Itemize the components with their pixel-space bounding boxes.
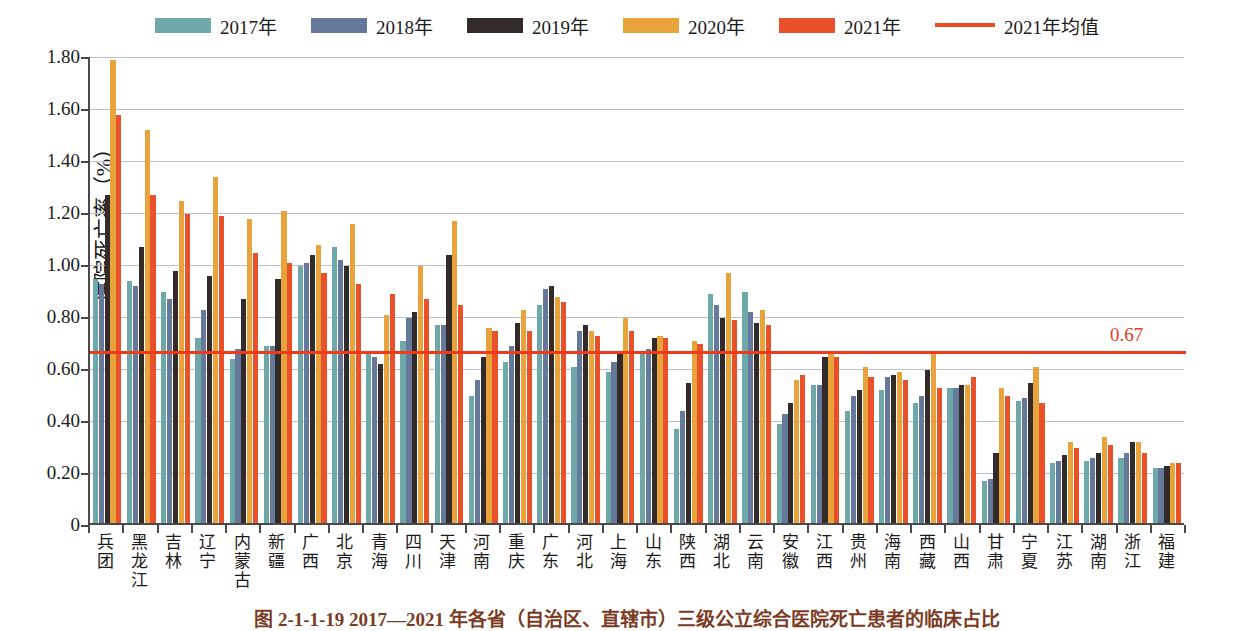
bar[interactable] <box>868 377 873 523</box>
bar[interactable] <box>195 338 200 523</box>
bar[interactable] <box>469 396 474 523</box>
bar[interactable] <box>185 214 190 523</box>
bar[interactable] <box>264 346 269 523</box>
bar[interactable] <box>321 273 326 523</box>
bar[interactable] <box>139 247 144 523</box>
bar[interactable] <box>486 328 491 523</box>
bar[interactable] <box>1118 458 1123 523</box>
bar[interactable] <box>1153 468 1158 523</box>
bar[interactable] <box>788 403 793 523</box>
bar[interactable] <box>680 411 685 523</box>
bar[interactable] <box>161 292 166 523</box>
bar[interactable] <box>623 318 628 523</box>
bar[interactable] <box>885 377 890 523</box>
bar[interactable] <box>503 362 508 523</box>
bar[interactable] <box>1096 453 1101 523</box>
bar[interactable] <box>800 375 805 523</box>
bar[interactable] <box>173 271 178 523</box>
bar[interactable] <box>537 305 542 523</box>
bar[interactable] <box>1176 463 1181 523</box>
bar[interactable] <box>509 346 514 523</box>
bar[interactable] <box>692 341 697 523</box>
bar[interactable] <box>1022 398 1027 523</box>
bar[interactable] <box>583 325 588 523</box>
bar[interactable] <box>748 312 753 523</box>
bar[interactable] <box>424 299 429 523</box>
bar[interactable] <box>606 372 611 523</box>
bar[interactable] <box>298 266 303 523</box>
bar[interactable] <box>1074 448 1079 523</box>
bar[interactable] <box>851 396 856 523</box>
bar[interactable] <box>412 312 417 523</box>
bar[interactable] <box>965 385 970 523</box>
legend-item-2019年[interactable]: 2019年 <box>467 12 589 39</box>
bar[interactable] <box>1158 468 1163 523</box>
bar[interactable] <box>720 318 725 523</box>
bar[interactable] <box>1102 437 1107 523</box>
bar[interactable] <box>959 385 964 523</box>
bar[interactable] <box>640 351 645 523</box>
bar[interactable] <box>879 390 884 523</box>
bar[interactable] <box>167 299 172 523</box>
bar[interactable] <box>1108 445 1113 523</box>
bar[interactable] <box>1130 442 1135 523</box>
bar[interactable] <box>235 349 240 523</box>
bar[interactable] <box>617 351 622 523</box>
bar[interactable] <box>441 325 446 523</box>
bar[interactable] <box>993 453 998 523</box>
bar[interactable] <box>310 255 315 523</box>
bar[interactable] <box>304 263 309 523</box>
bar[interactable] <box>247 219 252 523</box>
bar[interactable] <box>988 479 993 523</box>
bar[interactable] <box>611 362 616 523</box>
bar[interactable] <box>481 357 486 523</box>
bar[interactable] <box>116 115 121 523</box>
bar[interactable] <box>275 279 280 523</box>
bar[interactable] <box>674 429 679 523</box>
bar[interactable] <box>766 325 771 523</box>
bar[interactable] <box>179 201 184 523</box>
bar[interactable] <box>1005 396 1010 523</box>
bar[interactable] <box>828 354 833 523</box>
bar[interactable] <box>811 385 816 523</box>
bar[interactable] <box>316 245 321 523</box>
bar[interactable] <box>446 255 451 523</box>
bar[interactable] <box>937 388 942 523</box>
bar[interactable] <box>571 367 576 523</box>
legend-item-2017年[interactable]: 2017年 <box>155 12 277 39</box>
bar[interactable] <box>1142 453 1147 523</box>
bar[interactable] <box>857 390 862 523</box>
bar[interactable] <box>903 380 908 523</box>
bar[interactable] <box>384 315 389 523</box>
bar[interactable] <box>350 224 355 523</box>
bar[interactable] <box>1056 461 1061 523</box>
bar[interactable] <box>338 260 343 523</box>
bar[interactable] <box>344 266 349 523</box>
bar[interactable] <box>230 359 235 523</box>
legend-item-2021年均值[interactable]: 2021年均值 <box>935 12 1099 39</box>
bar[interactable] <box>1062 455 1067 523</box>
bar[interactable] <box>595 336 600 523</box>
bar[interactable] <box>406 318 411 523</box>
bar[interactable] <box>913 403 918 523</box>
bar[interactable] <box>458 305 463 523</box>
bar[interactable] <box>150 195 155 523</box>
bar[interactable] <box>281 211 286 523</box>
bar[interactable] <box>287 263 292 523</box>
bar[interactable] <box>543 289 548 523</box>
bar[interactable] <box>1136 442 1141 523</box>
bar[interactable] <box>782 414 787 523</box>
bar[interactable] <box>652 338 657 523</box>
bar[interactable] <box>1084 461 1089 523</box>
bar[interactable] <box>1090 458 1095 523</box>
legend-item-2021年[interactable]: 2021年 <box>779 12 901 39</box>
bar[interactable] <box>663 338 668 523</box>
bar[interactable] <box>127 281 132 523</box>
bar[interactable] <box>1050 463 1055 523</box>
bar[interactable] <box>492 331 497 523</box>
bar[interactable] <box>521 310 526 523</box>
bar[interactable] <box>1170 463 1175 523</box>
bar[interactable] <box>1016 401 1021 523</box>
bar[interactable] <box>400 341 405 523</box>
bar[interactable] <box>1164 466 1169 523</box>
